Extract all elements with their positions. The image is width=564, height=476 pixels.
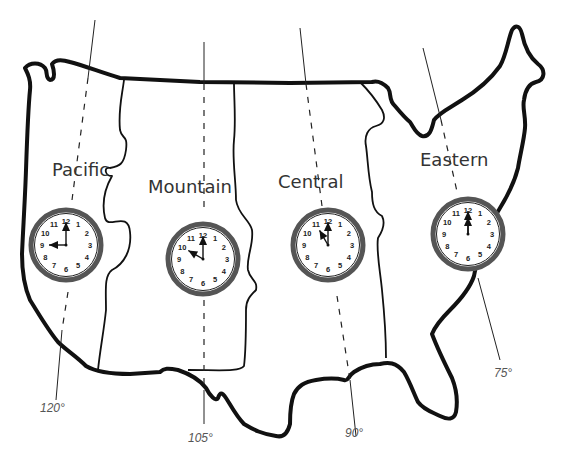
clock-number: 3 (225, 255, 229, 264)
clock-number: 10 (178, 243, 186, 252)
clock-number: 1 (76, 220, 80, 229)
clock-number: 6 (64, 265, 68, 274)
zone-label-eastern: Eastern (420, 149, 488, 170)
clock-number: 7 (52, 261, 56, 270)
pacific-mountain-border (98, 80, 130, 370)
central-eastern-border (360, 82, 386, 358)
clock-number: 10 (41, 229, 49, 238)
clock-number: 9 (177, 255, 181, 264)
clock-number: 6 (326, 265, 330, 274)
clock-number: 11 (452, 209, 460, 218)
clock-central: 121234567891011 (293, 210, 363, 280)
clock-number: 11 (312, 220, 320, 229)
clock-pacific: 121234567891011 (31, 210, 101, 280)
clock-number: 3 (88, 241, 92, 250)
meridian-label-120: 120° (40, 401, 65, 415)
clock-number: 2 (222, 243, 226, 252)
clock-mountain: 121234567891011 (168, 224, 238, 294)
clock-number: 9 (302, 241, 306, 250)
clock-number: 7 (189, 275, 193, 284)
meridian-label-105: 105° (188, 431, 213, 445)
clock-pivot (327, 244, 330, 247)
clock-number: 6 (466, 254, 470, 263)
clock-number: 8 (445, 242, 449, 251)
clock-number: 9 (442, 230, 446, 239)
clock-number: 10 (303, 229, 311, 238)
clock-number: 1 (338, 220, 342, 229)
clock-number: 10 (443, 218, 451, 227)
clock-pivot (202, 258, 205, 261)
clock-number: 9 (40, 241, 44, 250)
clock-number: 7 (314, 261, 318, 270)
clock-number: 11 (187, 234, 195, 243)
clock-eastern: 121234567891011 (433, 199, 503, 269)
clock-number: 1 (478, 209, 482, 218)
clock-number: 2 (85, 229, 89, 238)
clock-number: 5 (338, 261, 342, 270)
clock-number: 5 (213, 275, 217, 284)
clock-number: 8 (305, 253, 309, 262)
clock-number: 8 (180, 267, 184, 276)
clock-number: 3 (350, 241, 354, 250)
clock-number: 8 (43, 253, 47, 262)
clock-number: 2 (347, 229, 351, 238)
clock-number: 3 (490, 230, 494, 239)
us-time-zone-map: Pacific Mountain Central Eastern 120° 10… (0, 0, 564, 476)
zone-label-central: Central (278, 171, 344, 192)
clock-number: 1 (213, 234, 217, 243)
clock-number: 5 (76, 261, 80, 270)
clock-number: 2 (487, 218, 491, 227)
clock-pivot (467, 233, 470, 236)
zone-label-pacific: Pacific (52, 159, 109, 180)
meridian-label-75: 75° (494, 366, 512, 380)
zone-label-mountain: Mountain (148, 176, 232, 197)
clock-number: 6 (201, 279, 205, 288)
clock-number: 7 (454, 250, 458, 259)
clock-number: 11 (50, 220, 58, 229)
clock-number: 5 (478, 250, 482, 259)
meridian-label-90: 90° (345, 426, 363, 440)
clock-pivot (65, 244, 68, 247)
